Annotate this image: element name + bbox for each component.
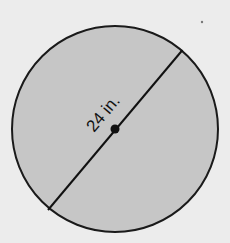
center-point [111,125,120,134]
speck [201,21,203,23]
circle-diagram: 24 in. [0,0,230,243]
